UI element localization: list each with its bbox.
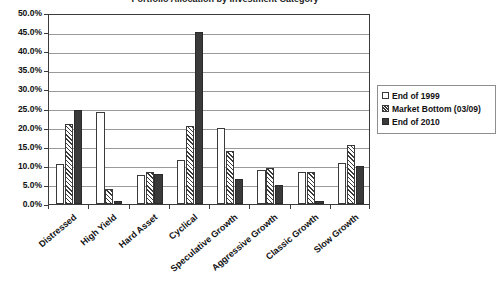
legend-swatch-icon [382,92,389,99]
legend-label: Market Bottom (03/09) [392,104,481,114]
legend-item[interactable]: End of 2010 [382,116,491,127]
legend-item[interactable]: Market Bottom (03/09) [382,103,491,114]
legend-swatch-icon [382,118,389,125]
legend-item[interactable]: End of 1999 [382,90,491,101]
legend-label: End of 2010 [392,117,440,127]
legend-swatch-icon [382,105,389,112]
bar-chart: Portfolio Allocation by Investment Categ… [0,0,500,293]
legend-label: End of 1999 [392,91,440,101]
chart-legend: End of 1999Market Bottom (03/09)End of 2… [377,85,496,134]
x-axis-labels: DistressedHigh YieldHard AssetCyclicalSp… [0,0,500,293]
